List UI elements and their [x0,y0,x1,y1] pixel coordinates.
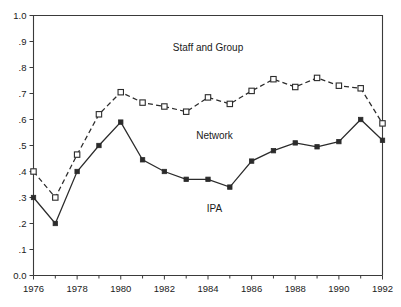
y-tick-label: .3 [19,192,27,203]
data-point-ipa-1977 [53,221,57,225]
data-point-ipa-1976 [31,195,35,199]
data-point-ipa-1978 [75,169,79,173]
data-point-ipa-1987 [271,149,275,153]
data-point-staff-and-group-1989 [314,75,319,80]
data-point-ipa-1981 [140,158,144,162]
data-point-ipa-1988 [293,141,297,145]
data-point-ipa-1989 [315,145,319,149]
data-point-staff-and-group-1977 [53,195,58,200]
y-tick-label: .9 [19,36,27,47]
data-point-ipa-1983 [184,177,188,181]
series-label-staff-and-group: Staff and Group [173,42,244,53]
data-point-staff-and-group-1987 [271,77,276,82]
series-label-ipa: IPA [207,203,223,214]
data-point-staff-and-group-1976 [31,169,36,174]
x-tick-label: 1978 [67,283,88,294]
y-tick-label: .6 [19,114,27,125]
y-tick-label: .7 [19,88,27,99]
x-tick-label: 1988 [285,283,306,294]
data-point-staff-and-group-1982 [162,104,167,109]
data-point-staff-and-group-1984 [205,95,210,100]
x-tick-label: 1980 [110,283,131,294]
chart-container: 1.0.9.8.7.6.5.4.3.2.10.01976197819801982… [0,0,401,307]
y-tick-label: .5 [19,140,27,151]
data-point-ipa-1982 [162,169,166,173]
x-tick-label: 1992 [372,283,393,294]
y-tick-label: 1.0 [13,10,26,21]
data-point-ipa-1984 [206,177,210,181]
data-point-staff-and-group-1983 [183,109,188,114]
data-point-staff-and-group-1978 [74,152,79,157]
series-label-network: Network [196,130,234,141]
x-tick-label: 1984 [197,283,218,294]
data-point-ipa-1985 [228,185,232,189]
x-tick-label: 1990 [328,283,349,294]
data-point-staff-and-group-1985 [227,101,232,106]
data-point-staff-and-group-1988 [293,84,298,89]
data-point-ipa-1979 [97,143,101,147]
data-point-ipa-1990 [337,139,341,143]
x-tick-label: 1982 [154,283,175,294]
data-point-staff-and-group-1980 [118,90,123,95]
data-point-staff-and-group-1981 [140,100,145,105]
data-point-staff-and-group-1979 [96,112,101,117]
plot-frame [34,16,383,276]
data-point-staff-and-group-1986 [249,88,254,93]
y-tick-label: 0.0 [13,270,26,281]
y-tick-label: .4 [19,166,27,177]
data-point-staff-and-group-1992 [380,121,385,126]
data-point-ipa-1986 [249,159,253,163]
y-tick-label: .1 [19,244,27,255]
data-point-ipa-1980 [119,120,123,124]
data-point-ipa-1991 [358,117,362,121]
line-chart: 1.0.9.8.7.6.5.4.3.2.10.01976197819801982… [0,0,401,307]
y-tick-label: .2 [19,218,27,229]
y-tick-label: .8 [19,62,27,73]
x-tick-label: 1986 [241,283,262,294]
data-point-staff-and-group-1991 [358,86,363,91]
x-tick-label: 1976 [23,283,44,294]
data-point-staff-and-group-1990 [336,83,341,88]
data-point-ipa-1992 [380,138,384,142]
